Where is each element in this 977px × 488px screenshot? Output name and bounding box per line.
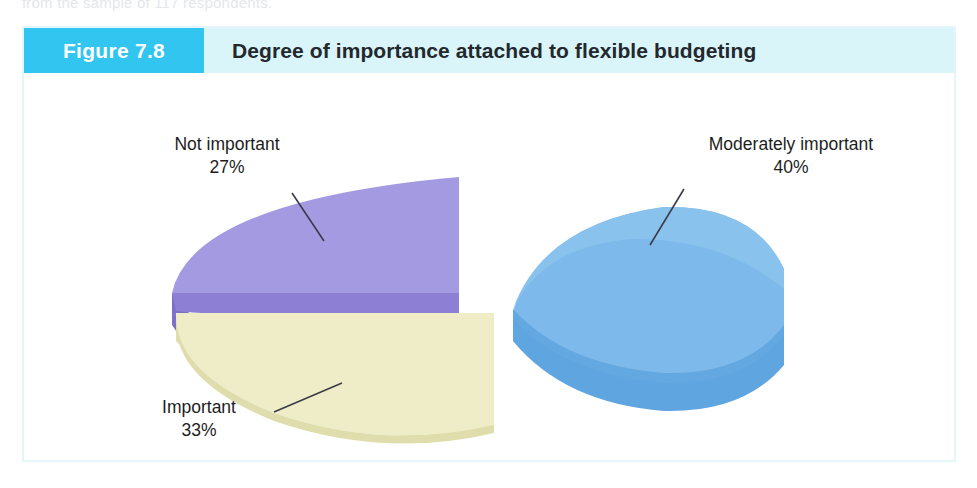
pie-label-not-important: Not important 27%	[132, 133, 322, 179]
pie-label-important: Important 33%	[124, 396, 274, 442]
pie-label-moderately-important-name: Moderately important	[676, 133, 906, 156]
figure-container: Figure 7.8 Degree of importance attached…	[22, 26, 956, 462]
figure-title: Degree of importance attached to flexibl…	[204, 28, 954, 73]
figure-number-badge: Figure 7.8	[24, 28, 204, 73]
pie-label-important-name: Important	[124, 396, 274, 419]
pie-label-moderately-important: Moderately important 40%	[676, 133, 906, 179]
pie-label-not-important-value: 27%	[132, 156, 322, 179]
page-body-text-fragment: from the sample of 117 respondents.	[22, 0, 542, 11]
figure-header: Figure 7.8 Degree of importance attached…	[24, 28, 954, 73]
pie-chart-area: Not important 27% Moderately important 4…	[24, 73, 954, 460]
pie-label-important-value: 33%	[124, 419, 274, 442]
pie-slice-moderately-important[interactable]	[513, 207, 784, 411]
pie-label-moderately-important-value: 40%	[676, 156, 906, 179]
pie-label-not-important-name: Not important	[132, 133, 322, 156]
